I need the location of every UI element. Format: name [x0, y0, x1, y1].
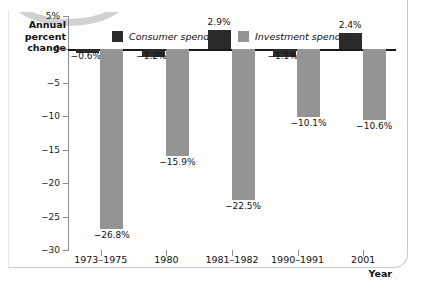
y-axis-tick-label: −20: [20, 178, 60, 188]
plot-area: 5%0−5−10−15−20−25−30 −0.6%−26.8%−1.2%−15…: [68, 16, 396, 250]
y-axis-tick-label: 5%: [20, 11, 60, 21]
y-axis-tick: [63, 183, 69, 184]
bar-consumer: [208, 30, 231, 49]
x-axis-category-label: 1980: [154, 254, 178, 265]
x-axis-category-label: 1973–1975: [74, 254, 127, 265]
y-axis-tick: [63, 217, 69, 218]
x-axis-title: Year: [330, 268, 392, 279]
bar-value-label: −10.1%: [282, 118, 336, 128]
y-axis-tick-label: −25: [20, 212, 60, 222]
bar-investment: [100, 49, 123, 228]
bar-investment: [297, 49, 320, 117]
y-axis-tick: [63, 116, 69, 117]
x-axis-category-label: 1990–1991: [271, 254, 324, 265]
bar-value-label: −22.5%: [216, 201, 270, 211]
bar-investment: [166, 49, 189, 155]
y-axis-tick: [63, 250, 69, 251]
y-axis-tick: [63, 150, 69, 151]
page-frame-left-rule: [8, 10, 9, 268]
bar-investment: [232, 49, 255, 199]
bar-consumer: [339, 33, 362, 49]
y-axis-tick-label: −30: [20, 245, 60, 255]
y-axis-tick-label: 0: [20, 44, 60, 54]
y-axis-tick-label: −10: [20, 111, 60, 121]
bar-value-label: 2.9%: [192, 17, 246, 27]
bar-investment: [363, 49, 386, 120]
bar-value-label: −10.6%: [347, 121, 401, 131]
bar-value-label: 2.4%: [323, 20, 377, 30]
y-axis-tick: [63, 16, 69, 17]
y-axis-tick-label: −15: [20, 145, 60, 155]
x-axis-category-label: 2001: [351, 254, 375, 265]
y-axis-tick: [63, 83, 69, 84]
chart-figure: Annual percent change Consumer spending …: [0, 0, 421, 291]
bar-value-label: −15.9%: [150, 157, 204, 167]
y-axis-title-line-2: percent: [14, 31, 66, 43]
y-axis-tick-label: −5: [20, 78, 60, 88]
bar-value-label: −26.8%: [85, 230, 139, 240]
x-axis-category-label: 1981–1982: [205, 254, 258, 265]
